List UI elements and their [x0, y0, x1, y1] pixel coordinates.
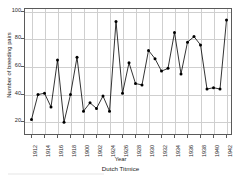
chart-figure: Number of breeding pairs 20406080100 191… [0, 0, 241, 177]
plot-area [24, 8, 232, 135]
x-tick-mark [226, 135, 227, 138]
x-tick-mark [200, 135, 201, 138]
x-tick-mark [174, 135, 175, 138]
data-point [69, 93, 72, 96]
data-point [102, 94, 105, 97]
x-axis-ticks: 1912191419161918190019021924192619281930… [24, 135, 232, 157]
data-series-line [25, 9, 233, 136]
data-point [30, 118, 33, 121]
data-point [186, 41, 189, 44]
data-point [199, 43, 202, 46]
data-point [37, 93, 40, 96]
x-tick-mark [44, 135, 45, 138]
x-tick-mark [83, 135, 84, 138]
x-tick-mark [109, 135, 110, 138]
data-point [121, 92, 124, 95]
data-point [134, 82, 137, 85]
data-point [108, 110, 111, 113]
data-point [115, 20, 118, 23]
data-point [173, 31, 176, 34]
data-point [225, 19, 228, 22]
x-tick-mark [70, 135, 71, 138]
y-tick-label: 100 [12, 8, 21, 14]
chart-caption: Dutch Titmice [0, 165, 241, 172]
data-point [180, 72, 183, 75]
x-tick-mark [161, 135, 162, 138]
x-tick-mark [122, 135, 123, 138]
data-point [206, 88, 209, 91]
x-tick-mark [187, 135, 188, 138]
x-tick-mark [213, 135, 214, 138]
data-point [128, 61, 131, 64]
series-polyline [32, 20, 227, 122]
data-point [56, 59, 59, 62]
data-point [82, 110, 85, 113]
data-point [63, 121, 66, 124]
data-point [89, 101, 92, 104]
data-point [154, 57, 157, 60]
data-point [147, 49, 150, 52]
data-point [219, 88, 222, 91]
data-point [212, 86, 215, 89]
x-axis-title: Year [0, 156, 241, 162]
data-point [141, 83, 144, 86]
page-artifact [8, 173, 104, 175]
data-point [167, 67, 170, 70]
data-point [76, 56, 79, 59]
x-tick-mark [148, 135, 149, 138]
x-tick-mark [31, 135, 32, 138]
data-point [50, 106, 53, 109]
x-tick-mark [57, 135, 58, 138]
x-tick-mark [96, 135, 97, 138]
data-point [43, 92, 46, 95]
data-point [193, 35, 196, 38]
y-axis-ticks: 20406080100 [0, 8, 21, 135]
data-point [160, 70, 163, 73]
data-point [95, 107, 98, 110]
x-tick-mark [135, 135, 136, 138]
